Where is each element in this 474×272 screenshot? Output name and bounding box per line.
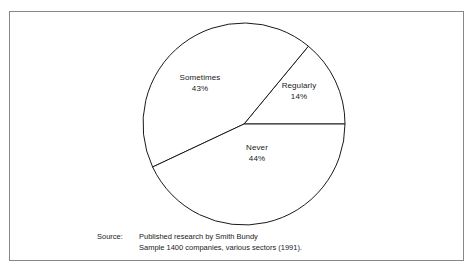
slice-label-regularly-name: Regularly [262,80,336,91]
slice-label-sometimes: Sometimes 43% [160,72,240,94]
slice-label-never: Never 44% [222,142,292,164]
source-label: Source: [97,232,139,243]
pie-chart-figure: Sometimes 43% Regularly 14% Never 44% So… [0,0,474,272]
slice-label-sometimes-name: Sometimes [160,72,240,83]
pie-slices-group [143,23,345,225]
slice-label-sometimes-value: 43% [160,83,240,94]
source-line-2: Sample 1400 companies, various sectors (… [139,243,302,254]
source-text: Published research by Smith Bundy Sample… [139,232,302,253]
slice-label-regularly: Regularly 14% [262,80,336,102]
source-note: Source: Published research by Smith Bund… [97,232,302,253]
source-line-1: Published research by Smith Bundy [139,232,302,243]
slice-label-regularly-value: 14% [262,91,336,102]
slice-label-never-value: 44% [222,153,292,164]
slice-label-never-name: Never [222,142,292,153]
source-row: Source: Published research by Smith Bund… [97,232,302,253]
